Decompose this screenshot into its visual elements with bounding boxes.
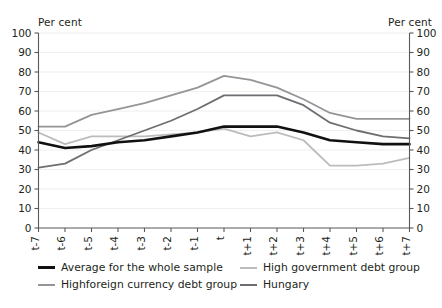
y-tick-label: 60 — [18, 105, 31, 117]
y-tick-label: 0 — [25, 222, 32, 234]
x-tick-label-tminus6: t-6 — [55, 236, 67, 251]
y-tick-label: 40 — [18, 144, 31, 156]
series-line-highforeign-currency-debt-group — [39, 76, 410, 127]
y-tick-label: 10 — [417, 202, 430, 214]
x-axis-tick-labels: t-7t-6t-5t-4t-3t-2t-1tt+1t+2t+3t+4t+5t+6… — [29, 236, 412, 256]
legend-swatch-icon — [240, 267, 257, 269]
legend-entry-hungary[interactable]: Hungary — [240, 277, 309, 292]
chart-legend: Average for the whole sample High govern… — [38, 260, 438, 304]
y-tick-label: 60 — [417, 105, 430, 117]
legend-row-2: Highforeign currency debt group Hungary — [38, 277, 438, 294]
y-tick-label: 50 — [18, 124, 31, 136]
chart-container: Per cent Per cent 0102030405060708090100… — [0, 0, 442, 308]
y-tick-label: 100 — [417, 27, 437, 39]
y-tick-label: 50 — [417, 124, 430, 136]
x-tick-label-tminus1: t-1 — [188, 236, 200, 251]
legend-entry-high-government-debt-group[interactable]: High government debt group — [240, 260, 420, 275]
legend-entry-average-for-the-whole-sample[interactable]: Average for the whole sample — [38, 260, 240, 275]
legend-row-1: Average for the whole sample High govern… — [38, 260, 438, 277]
x-tick-label-tplus2: t+2 — [267, 236, 279, 256]
data-series-group — [39, 76, 410, 168]
y-axis-tick-labels-right: 0102030405060708090100 — [417, 27, 437, 234]
axes-group — [35, 33, 414, 232]
x-tick-label-tplus6: t+6 — [373, 236, 385, 256]
right-axis-unit-label: Per cent — [388, 16, 432, 28]
legend-swatch-icon — [38, 266, 55, 269]
y-tick-label: 30 — [18, 163, 31, 175]
x-tick-label-tplus4: t+4 — [320, 236, 332, 256]
y-tick-label: 30 — [417, 163, 430, 175]
x-tick-label-tminus3: t-3 — [135, 236, 147, 251]
legend-swatch-icon — [38, 284, 55, 286]
series-line-hungary — [39, 95, 410, 167]
y-tick-label: 70 — [417, 85, 430, 97]
x-tick-label-tplus3: t+3 — [294, 236, 306, 256]
legend-label: Highforeign currency debt group — [61, 277, 237, 292]
y-tick-label: 90 — [417, 46, 430, 58]
y-tick-label: 10 — [18, 202, 31, 214]
y-tick-label: 80 — [18, 66, 31, 78]
legend-label: High government debt group — [263, 260, 420, 275]
x-tick-label-tplus5: t+5 — [347, 236, 359, 256]
legend-swatch-icon — [240, 284, 257, 286]
x-tick-label-tminus4: t-4 — [108, 236, 120, 251]
legend-entry-highforeign-currency-debt-group[interactable]: Highforeign currency debt group — [38, 277, 240, 292]
series-line-high-government-debt-group — [39, 129, 410, 166]
legend-label: Hungary — [263, 277, 309, 292]
x-tick-label-tplus7: t+7 — [400, 236, 412, 256]
y-tick-label: 70 — [18, 85, 31, 97]
y-tick-label: 90 — [18, 46, 31, 58]
x-tick-label-tminus5: t-5 — [82, 236, 94, 251]
y-tick-label: 80 — [417, 66, 430, 78]
gridlines — [39, 33, 410, 209]
x-tick-label-tminus7: t-7 — [29, 236, 41, 251]
y-tick-label: 0 — [417, 222, 424, 234]
left-axis-unit-label: Per cent — [38, 16, 82, 28]
y-axis-tick-labels-left: 0102030405060708090100 — [11, 27, 31, 234]
x-tick-label-tplus1: t+1 — [241, 236, 253, 256]
y-tick-label: 40 — [417, 144, 430, 156]
x-tick-label-t: t — [214, 236, 226, 240]
line-chart-plot: 0102030405060708090100 01020304050607080… — [0, 0, 442, 260]
y-tick-label: 20 — [18, 183, 31, 195]
y-tick-label: 20 — [417, 183, 430, 195]
legend-label: Average for the whole sample — [61, 260, 223, 275]
y-tick-label: 100 — [11, 27, 31, 39]
x-tick-label-tminus2: t-2 — [161, 236, 173, 251]
